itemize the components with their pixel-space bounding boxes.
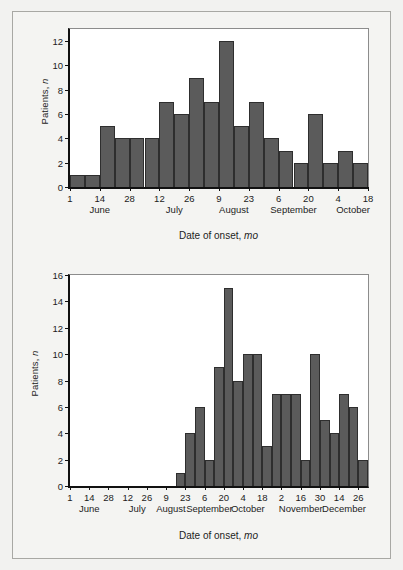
bar: [130, 138, 145, 187]
x-tick: [219, 187, 220, 191]
y-tick: [65, 407, 70, 408]
y-tick: [65, 328, 70, 329]
y-tick-label: 16: [52, 270, 63, 281]
x-tick: [100, 187, 101, 191]
x-tick-label: 14: [334, 492, 345, 503]
x-tick-label: 26: [142, 492, 153, 503]
x-tick-label: 14: [84, 492, 95, 503]
x-tick: [159, 187, 160, 191]
panel-a-x-axis-title-italic: mo: [244, 230, 258, 241]
bar: [176, 473, 186, 486]
y-tick: [65, 114, 70, 115]
y-tick: [65, 301, 70, 302]
bar: [249, 102, 264, 187]
panel-b-x-axis-title-italic: mo: [244, 530, 258, 541]
x-tick-label: 9: [163, 492, 168, 503]
panel-b-y-axis-title-text: Patients,: [29, 356, 40, 397]
x-tick-label: 20: [303, 193, 314, 204]
x-tick-label: 16: [295, 492, 306, 503]
x-tick: [358, 486, 359, 490]
bar: [234, 126, 249, 187]
x-tick: [301, 486, 302, 490]
panel-a-y-axis-title-text: Patients,: [39, 84, 50, 125]
bar: [310, 354, 320, 486]
y-tick-label: 12: [52, 322, 63, 333]
x-tick-label: 18: [257, 492, 268, 503]
bar: [214, 367, 224, 486]
x-tick-label: 14: [95, 193, 106, 204]
bar: [115, 138, 130, 187]
y-tick-label: 6: [58, 401, 63, 412]
y-tick-label: 12: [52, 36, 63, 47]
x-tick: [166, 486, 167, 490]
panel-b-bottom-histogram: Patients, n 0246810121416114281226923620…: [0, 250, 403, 570]
panel-b-x-axis-title: Date of onset, mo: [68, 530, 369, 541]
x-tick: [130, 187, 131, 191]
x-tick: [308, 187, 309, 191]
x-tick: [279, 187, 280, 191]
bar: [100, 126, 115, 187]
y-tick: [65, 41, 70, 42]
y-tick-label: 0: [58, 182, 63, 193]
bar: [219, 41, 234, 187]
y-tick-label: 8: [58, 375, 63, 386]
panel-b-y-axis-title-italic: n: [29, 351, 40, 356]
x-tick-label: 6: [202, 492, 207, 503]
bar: [205, 460, 215, 486]
panel-b-y-axis-title: Patients, n: [29, 334, 40, 414]
bar: [195, 407, 205, 486]
bar: [224, 288, 234, 486]
y-tick: [65, 433, 70, 434]
bar: [291, 394, 301, 486]
x-month-label: December: [322, 503, 366, 514]
x-tick-label: 2: [279, 492, 284, 503]
bar: [281, 394, 291, 486]
y-tick: [65, 163, 70, 164]
x-month-label: October: [231, 503, 265, 514]
x-tick: [89, 486, 90, 490]
bar: [339, 394, 349, 486]
y-tick-label: 6: [58, 109, 63, 120]
x-tick-label: 1: [67, 193, 72, 204]
x-tick-label: 20: [219, 492, 230, 503]
x-tick: [205, 486, 206, 490]
x-tick: [262, 486, 263, 490]
panel-a-x-axis-title: Date of onset, mo: [68, 230, 369, 241]
y-tick-label: 4: [58, 428, 63, 439]
panel-b-plot-area: 0246810121416114281226923620418216301426…: [68, 274, 369, 488]
figure-container: Patients, n 024681012114281226923620418J…: [0, 0, 403, 570]
bar: [330, 433, 340, 486]
bar: [264, 138, 279, 187]
x-tick: [339, 486, 340, 490]
x-tick-label: 30: [315, 492, 326, 503]
bar: [320, 420, 330, 486]
x-tick: [249, 187, 250, 191]
x-tick-label: 12: [154, 193, 165, 204]
bar: [204, 102, 219, 187]
y-tick-label: 2: [58, 454, 63, 465]
panel-a-y-axis-title: Patients, n: [39, 62, 50, 142]
x-month-label: July: [129, 503, 146, 514]
x-tick: [281, 486, 282, 490]
bar: [338, 151, 353, 187]
bar: [358, 460, 368, 486]
x-tick: [70, 187, 71, 191]
y-tick-label: 14: [52, 296, 63, 307]
y-tick: [65, 65, 70, 66]
x-tick-label: 9: [216, 193, 221, 204]
panel-a-plot-area: 024681012114281226923620418JuneJulyAugus…: [68, 28, 369, 189]
y-tick: [65, 354, 70, 355]
x-tick: [368, 187, 369, 191]
bar: [294, 163, 309, 187]
x-tick-label: 12: [122, 492, 133, 503]
panel-a-x-axis-title-text: Date of onset,: [179, 230, 244, 241]
x-month-label: September: [270, 204, 316, 215]
bar: [353, 163, 368, 187]
bar: [233, 381, 243, 487]
y-tick-label: 2: [58, 157, 63, 168]
x-tick-label: 18: [363, 193, 374, 204]
x-tick: [320, 486, 321, 490]
bar: [272, 394, 282, 486]
panel-b-bars: [70, 275, 368, 486]
x-tick-label: 6: [276, 193, 281, 204]
